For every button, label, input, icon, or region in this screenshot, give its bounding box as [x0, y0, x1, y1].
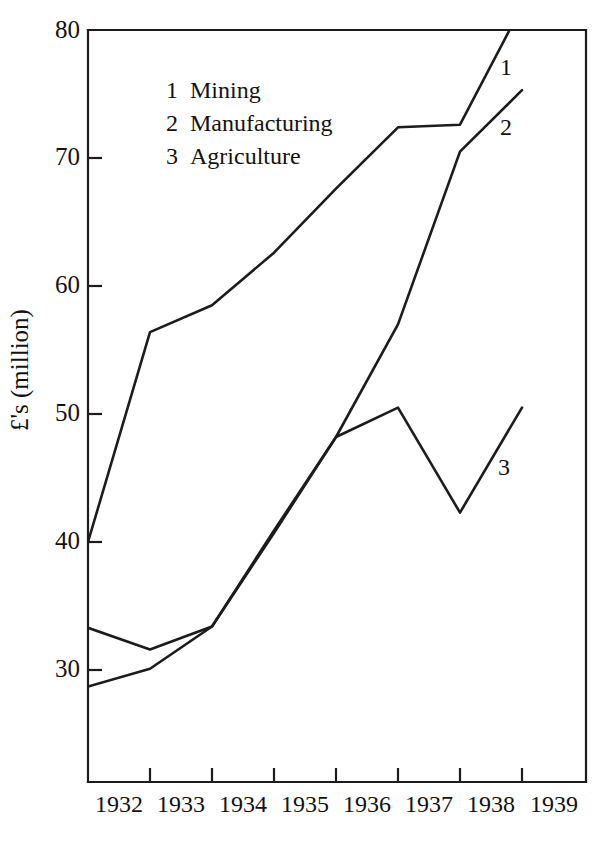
y-axis-tick-labels: 30 40 50 60 70 80	[55, 16, 80, 682]
legend-number-3: 3	[166, 143, 178, 169]
x-tick-label-1933: 1933	[157, 791, 205, 817]
y-tick-label-70: 70	[55, 143, 80, 170]
legend-number-1: 1	[166, 77, 178, 103]
y-axis-ticks	[88, 158, 102, 670]
legend-label-manufacturing: Manufacturing	[190, 110, 333, 136]
series-line-manufacturing	[88, 90, 522, 649]
line-chart: £'s (million) 30 40 50 60 70 80	[0, 0, 607, 843]
chart-svg: £'s (million) 30 40 50 60 70 80	[0, 0, 607, 843]
y-tick-label-40: 40	[55, 527, 80, 554]
x-axis-ticks	[150, 768, 522, 782]
y-tick-label-80: 80	[55, 16, 80, 43]
y-tick-label-60: 60	[55, 271, 80, 298]
y-tick-label-50: 50	[55, 399, 80, 426]
plot-frame	[88, 30, 586, 782]
x-tick-label-1937: 1937	[405, 791, 453, 817]
series-end-label-1: 1	[500, 54, 512, 80]
x-axis-tick-labels: 1932 1933 1934 1935 1936 1937 1938 1939	[95, 791, 578, 817]
y-axis-title: £'s (million)	[6, 309, 34, 431]
y-tick-label-30: 30	[55, 655, 80, 682]
legend-label-mining: Mining	[190, 77, 261, 103]
x-tick-label-1934: 1934	[219, 791, 267, 817]
x-tick-label-1936: 1936	[343, 791, 391, 817]
series-end-label-2: 2	[500, 114, 512, 140]
series-line-agriculture	[88, 408, 522, 687]
x-tick-label-1935: 1935	[281, 791, 329, 817]
series-end-label-3: 3	[498, 454, 510, 480]
series-line-mining	[88, 30, 510, 542]
x-tick-label-1939: 1939	[530, 791, 578, 817]
legend-number-2: 2	[166, 110, 178, 136]
x-tick-label-1932: 1932	[95, 791, 143, 817]
x-tick-label-1938: 1938	[467, 791, 515, 817]
legend-label-agriculture: Agriculture	[190, 143, 301, 169]
legend: 1 Mining 2 Manufacturing 3 Agriculture	[166, 77, 333, 169]
